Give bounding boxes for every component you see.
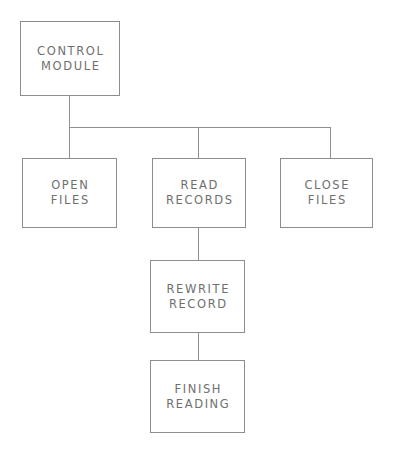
node-control-module[interactable]: CONTROL MODULE xyxy=(20,21,120,96)
node-finish-reading-line-1: FINISH xyxy=(173,382,222,397)
node-read-records-line-2: RECORDS xyxy=(164,193,233,208)
connector-sibling-bus xyxy=(69,127,331,128)
node-open-files-line-2: FILES xyxy=(49,193,90,208)
connector-control-module-drop xyxy=(69,96,70,127)
node-rewrite-record[interactable]: REWRITE RECORD xyxy=(150,260,245,333)
node-rewrite-record-line-2: RECORD xyxy=(167,297,227,312)
node-open-files[interactable]: OPEN FILES xyxy=(22,158,117,228)
connector-finish-reading-link xyxy=(198,333,199,360)
node-close-files-line-1: CLOSE xyxy=(303,178,350,193)
node-read-records-line-1: READ xyxy=(179,178,219,193)
node-read-records[interactable]: READ RECORDS xyxy=(152,158,246,228)
connector-read-records-drop xyxy=(198,127,199,158)
connector-rewrite-record-link xyxy=(198,228,199,260)
structure-chart-canvas: CONTROL MODULE OPEN FILES READ RECORDS C… xyxy=(0,0,394,457)
node-close-files-line-2: FILES xyxy=(306,193,347,208)
connector-close-files-drop xyxy=(330,127,331,158)
node-control-module-line-2: MODULE xyxy=(39,59,100,74)
node-finish-reading[interactable]: FINISH READING xyxy=(150,360,245,433)
node-control-module-line-1: CONTROL xyxy=(36,44,105,59)
node-open-files-line-1: OPEN xyxy=(50,178,90,193)
connector-open-files-drop xyxy=(69,127,70,158)
node-rewrite-record-line-1: REWRITE xyxy=(165,282,230,297)
node-close-files[interactable]: CLOSE FILES xyxy=(280,158,373,228)
node-finish-reading-line-2: READING xyxy=(165,397,231,412)
